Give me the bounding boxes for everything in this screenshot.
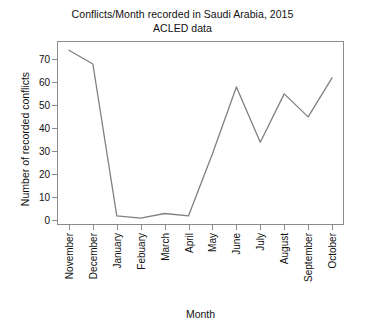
x-axis-tick-label-text: May <box>207 232 218 252</box>
x-axis-tick-label-text: July <box>255 232 266 251</box>
x-axis-tick-label: April <box>189 211 200 232</box>
y-axis-tick-mark <box>52 174 57 175</box>
x-axis-tick-label-text: June <box>231 232 242 255</box>
x-axis-tick-label: July <box>260 213 271 232</box>
y-axis-tick-mark <box>52 151 57 152</box>
x-axis-tick-label: Febuary <box>141 194 152 232</box>
x-axis-tick-label-text: September <box>303 232 314 282</box>
y-axis-tick-mark <box>52 59 57 60</box>
x-axis-tick-label: August <box>284 200 295 232</box>
x-axis-tick-labels: NovemberDecemberJanuaryFebuaryMarchApril… <box>57 232 344 302</box>
x-axis-tick-label: January <box>117 195 128 232</box>
y-axis-tick-mark <box>52 128 57 129</box>
x-axis-title: Month <box>57 308 344 320</box>
x-axis-tick-label-text: March <box>159 232 170 261</box>
x-axis-tick-label-text: August <box>279 232 290 264</box>
y-axis-tick-mark <box>52 82 57 83</box>
x-axis-tick-label: October <box>332 195 343 232</box>
x-axis-tick-label: June <box>236 209 247 232</box>
x-axis-tick-label: May <box>212 212 223 232</box>
x-axis-tick-label-text: January <box>111 232 122 269</box>
conflicts-line-series <box>69 50 332 218</box>
x-axis-tick-label-text: December <box>87 232 98 279</box>
x-axis-tick-label-text: April <box>183 232 194 253</box>
x-axis-tick-label-text: Febuary <box>135 232 146 270</box>
chart-title-block: Conflicts/Month recorded in Saudi Arabia… <box>0 7 365 35</box>
chart-subtitle: ACLED data <box>0 21 365 35</box>
y-axis-tick-mark <box>52 197 57 198</box>
x-axis-tick-label-text: October <box>327 232 338 269</box>
chart-container: Conflicts/Month recorded in Saudi Arabia… <box>0 0 365 333</box>
y-axis-tick-mark <box>52 105 57 106</box>
y-axis-title: Number of recorded conflicts <box>19 39 31 239</box>
x-axis-tick-label: November <box>69 185 80 232</box>
chart-title: Conflicts/Month recorded in Saudi Arabia… <box>0 7 365 21</box>
x-axis-tick-label: December <box>93 185 104 232</box>
y-axis-tick-marks <box>51 41 57 225</box>
x-axis-tick-label-text: November <box>63 232 74 279</box>
x-axis-tick-label: March <box>165 203 176 232</box>
x-axis-tick-label: September <box>308 182 319 232</box>
y-axis-tick-mark <box>52 220 57 221</box>
